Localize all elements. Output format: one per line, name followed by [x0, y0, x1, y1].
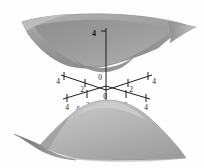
back-origin-label-0: 0: [98, 73, 102, 82]
lower-sheet-body: [40, 100, 186, 160]
back-right-tick-label-4: 4: [152, 77, 156, 86]
front-left-tick-label-4: 4: [65, 103, 69, 112]
front-right-axis: [106, 86, 150, 99]
upper-sheet-right-tip: [168, 22, 196, 43]
upper-sheet-surface: [22, 14, 196, 72]
hyperboloid-figure: 4 4 2 0 2 4 4 y 2 0 2 4: [0, 0, 204, 168]
back-left-tick-label-2: 2: [80, 85, 84, 94]
front-origin-label-0: 0: [103, 92, 107, 101]
back-left-tick-label-4: 4: [56, 77, 60, 86]
z-tick-label-4: 4: [92, 29, 96, 38]
front-right-tick-label-4: 4: [144, 103, 148, 112]
surface-plot: 4 4 2 0 2 4 4 y 2 0 2 4: [0, 0, 204, 168]
lower-sheet-surface: [14, 100, 186, 162]
back-right-tick-label-2: 2: [129, 85, 133, 94]
front-left-axis: [63, 86, 106, 99]
